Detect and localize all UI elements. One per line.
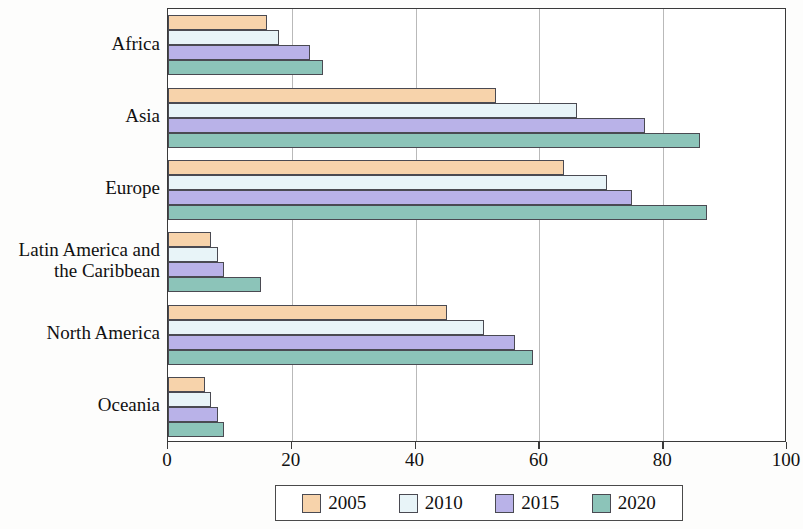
bar-row (168, 422, 785, 437)
legend-swatch (302, 494, 321, 513)
y-axis-label: Asia (0, 106, 160, 127)
legend: 2005201020152020 (275, 485, 683, 521)
bar (168, 392, 211, 407)
bar-row (168, 175, 785, 190)
legend-label: 2010 (425, 492, 463, 514)
x-axis-tick (291, 442, 292, 449)
y-axis-label: North America (0, 323, 160, 344)
bar-row (168, 232, 785, 247)
bar-row (168, 160, 785, 175)
plot-area (167, 8, 786, 442)
y-axis-label-line: North America (0, 323, 160, 344)
x-axis-tick (662, 442, 663, 449)
bar-group (168, 160, 785, 220)
bar-row (168, 262, 785, 277)
y-axis-label: Europe (0, 178, 160, 199)
bar-row (168, 392, 785, 407)
bar (168, 175, 607, 190)
y-axis-label: Oceania (0, 395, 160, 416)
y-axis-label-line: Europe (0, 178, 160, 199)
x-axis-tick (167, 442, 168, 449)
bar-row (168, 88, 785, 103)
x-axis-tick (786, 442, 787, 449)
bar-chart: AfricaAsiaEuropeLatin America andthe Car… (0, 0, 803, 529)
bar-row (168, 60, 785, 75)
bar (168, 232, 211, 247)
y-axis-label-line: the Caribbean (0, 261, 160, 282)
bar (168, 45, 310, 60)
x-axis-tick-label: 100 (772, 449, 801, 471)
legend-swatch (592, 494, 611, 513)
x-axis-tick-label: 60 (529, 449, 548, 471)
legend-label: 2005 (328, 492, 366, 514)
bar-row (168, 320, 785, 335)
bar-row (168, 305, 785, 320)
bar-row (168, 103, 785, 118)
bar-row (168, 377, 785, 392)
bar (168, 407, 218, 422)
bar-row (168, 407, 785, 422)
bar (168, 262, 224, 277)
x-axis-tick-label: 80 (653, 449, 672, 471)
bar (168, 103, 577, 118)
y-axis-label-line: Latin America and (0, 240, 160, 261)
bar-row (168, 350, 785, 365)
bar-row (168, 30, 785, 45)
bar (168, 305, 447, 320)
bar-row (168, 277, 785, 292)
x-axis-tick-label: 0 (162, 449, 172, 471)
y-axis-label-line: Asia (0, 106, 160, 127)
legend-item: 2020 (592, 492, 656, 514)
bar-row (168, 45, 785, 60)
y-axis-label: Latin America andthe Caribbean (0, 240, 160, 282)
bar (168, 190, 632, 205)
y-axis-label-line: Oceania (0, 395, 160, 416)
bar (168, 160, 564, 175)
bar (168, 350, 533, 365)
bar (168, 60, 323, 75)
x-axis-tick (538, 442, 539, 449)
bar (168, 133, 700, 148)
bar (168, 88, 496, 103)
bar-group (168, 377, 785, 437)
bar (168, 377, 205, 392)
legend-item: 2005 (302, 492, 366, 514)
bar (168, 118, 645, 133)
bar-row (168, 190, 785, 205)
legend-item: 2015 (495, 492, 559, 514)
y-axis-label-line: Africa (0, 34, 160, 55)
bar-row (168, 118, 785, 133)
bar-row (168, 335, 785, 350)
bar-group (168, 15, 785, 75)
bar (168, 15, 267, 30)
bar (168, 422, 224, 437)
x-axis-tick-label: 20 (281, 449, 300, 471)
bar (168, 335, 515, 350)
bar-row (168, 15, 785, 30)
legend-label: 2015 (521, 492, 559, 514)
bar-row (168, 205, 785, 220)
bar-row (168, 247, 785, 262)
bar (168, 320, 484, 335)
bar (168, 205, 707, 220)
y-axis-label: Africa (0, 34, 160, 55)
bar (168, 247, 218, 262)
bar (168, 277, 261, 292)
bar-group (168, 232, 785, 292)
x-axis-tick (415, 442, 416, 449)
legend-item: 2010 (399, 492, 463, 514)
legend-swatch (495, 494, 514, 513)
x-axis-tick-label: 40 (405, 449, 424, 471)
bar-row (168, 133, 785, 148)
bar-group (168, 88, 785, 148)
legend-swatch (399, 494, 418, 513)
legend-label: 2020 (618, 492, 656, 514)
bar (168, 30, 279, 45)
bar-group (168, 305, 785, 365)
